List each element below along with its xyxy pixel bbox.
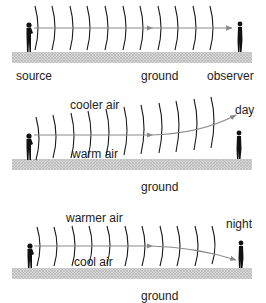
label-source: source bbox=[16, 70, 52, 82]
ground-strip bbox=[12, 159, 252, 170]
source-person-icon bbox=[27, 243, 34, 268]
label-warmer-air: warmer air bbox=[66, 212, 123, 224]
label-ground: ground bbox=[141, 290, 178, 302]
label-cool-air: cool air bbox=[74, 256, 113, 268]
label-ground: ground bbox=[141, 181, 178, 193]
observer-person-icon bbox=[237, 131, 242, 159]
panel-night bbox=[12, 226, 252, 279]
label-observer: observer bbox=[207, 70, 254, 82]
observer-person-icon bbox=[239, 241, 244, 268]
ground-strip bbox=[12, 52, 252, 63]
ground-strip bbox=[12, 268, 252, 279]
source-person-icon bbox=[26, 22, 33, 52]
wavefronts bbox=[36, 97, 214, 160]
label-day: day bbox=[235, 104, 254, 116]
label-ground: ground bbox=[141, 70, 178, 82]
panel-uniform bbox=[12, 6, 252, 63]
sound-propagation-diagram bbox=[0, 0, 266, 303]
label-warm-air: warm air bbox=[72, 148, 118, 160]
observer-person-icon bbox=[238, 22, 243, 52]
label-cooler-air: cooler air bbox=[70, 99, 119, 111]
source-person-icon bbox=[26, 133, 33, 160]
panel-day bbox=[12, 97, 252, 170]
label-night: night bbox=[226, 218, 252, 230]
sound-ray-refracted-up bbox=[150, 115, 236, 135]
